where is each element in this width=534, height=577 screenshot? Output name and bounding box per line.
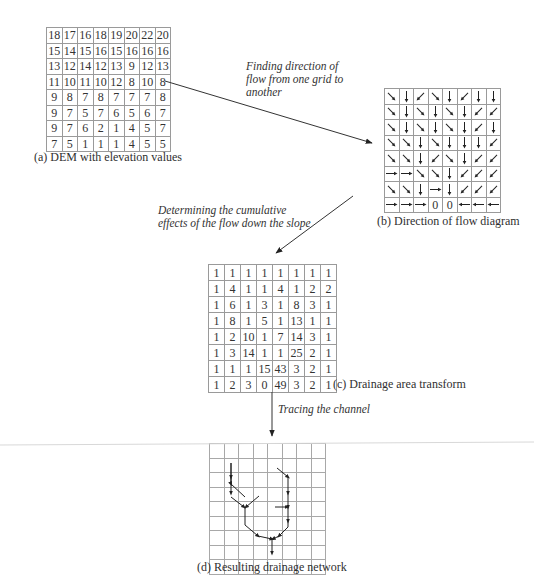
caption-flow-direction: (b) Direction of flow diagram bbox=[377, 214, 520, 229]
flow-arrow-s-icon bbox=[486, 120, 501, 136]
grid-cell: 1 bbox=[209, 377, 225, 393]
grid-cell bbox=[253, 516, 268, 531]
grid-cell: 1 bbox=[209, 361, 225, 377]
grid-cell bbox=[210, 516, 225, 531]
flow-arrow-sw-icon bbox=[472, 182, 487, 198]
grid-cell bbox=[268, 516, 283, 531]
grid-cell: 2 bbox=[321, 281, 337, 297]
grid-cell: 19 bbox=[109, 28, 125, 44]
grid-cell: 6 bbox=[109, 105, 125, 121]
grid-row bbox=[210, 502, 326, 517]
flow-arrow-sw-icon bbox=[472, 166, 487, 182]
grid-cell: 7 bbox=[93, 105, 109, 121]
grid-cell: 8 bbox=[225, 313, 241, 329]
grid-cell bbox=[210, 458, 225, 473]
flow-arrow-e-icon bbox=[385, 197, 400, 213]
grid-cell: 8 bbox=[124, 74, 140, 90]
grid-cell bbox=[224, 516, 239, 531]
flow-arrow-e-icon bbox=[399, 197, 414, 213]
caption-drainage-area: (c) Drainage area transform bbox=[333, 377, 466, 392]
grid-cell: 2 bbox=[305, 361, 321, 377]
grid-cell: 1 bbox=[321, 345, 337, 361]
grid-cell: 1 bbox=[305, 313, 321, 329]
grid-row: 1111543321 bbox=[209, 361, 337, 377]
grid-row: 97621457 bbox=[47, 121, 171, 137]
grid-cell: 6 bbox=[78, 121, 94, 137]
grid-cell: 20 bbox=[155, 28, 171, 44]
grid-cell: 15 bbox=[47, 43, 63, 59]
grid-cell bbox=[253, 473, 268, 488]
grid-cell: 14 bbox=[241, 345, 257, 361]
grid-cell: 1 bbox=[225, 265, 241, 281]
grid-row: 1817161819202220 bbox=[47, 28, 171, 44]
grid-cell bbox=[297, 516, 312, 531]
flow-arrow-s-icon bbox=[414, 135, 429, 151]
flow-arrow-s-icon bbox=[399, 120, 414, 136]
grid-row: 1314112521 bbox=[209, 345, 337, 361]
grid-cell: 3 bbox=[241, 377, 257, 393]
flow-arrow-s-icon bbox=[457, 120, 472, 136]
grid-cell bbox=[311, 473, 326, 488]
grid-cell bbox=[224, 487, 239, 502]
flow-arrow-sw-icon bbox=[486, 166, 501, 182]
flow-arrow-e-icon bbox=[414, 197, 429, 213]
grid-cell: 10 bbox=[62, 74, 78, 90]
grid-cell: 1 bbox=[209, 345, 225, 361]
grid-cell: 7 bbox=[62, 121, 78, 137]
grid-cell bbox=[239, 458, 254, 473]
grid-cell: 3 bbox=[225, 345, 241, 361]
note-line: effects of the flow down the slope bbox=[158, 217, 311, 230]
grid-cell: 14 bbox=[289, 329, 305, 345]
grid-cell: 2 bbox=[305, 345, 321, 361]
grid-cell: 16 bbox=[140, 43, 156, 59]
grid-row: 16131831 bbox=[209, 297, 337, 313]
grid-cell: 1 bbox=[209, 313, 225, 329]
flow-arrow-w-icon bbox=[486, 197, 501, 213]
flow-arrow-sw-icon bbox=[486, 151, 501, 167]
note-tracing-channel: Tracing the channel bbox=[278, 403, 370, 416]
grid-row bbox=[385, 182, 501, 198]
grid-cell bbox=[311, 516, 326, 531]
flow-arrow-s-icon bbox=[428, 104, 443, 120]
grid-cell: 5 bbox=[124, 105, 140, 121]
grid-cell: 4 bbox=[124, 121, 140, 137]
flow-arrow-s-icon bbox=[457, 104, 472, 120]
grid-row bbox=[210, 458, 326, 473]
grid-cell bbox=[311, 458, 326, 473]
grid-cell bbox=[224, 444, 239, 459]
grid-cell: 22 bbox=[140, 28, 156, 44]
grid-row: 00 bbox=[385, 197, 501, 213]
flow-arrow-s-icon bbox=[443, 89, 458, 105]
flow-arrow-sw-icon bbox=[486, 135, 501, 151]
grid-cell bbox=[224, 545, 239, 560]
flow-arrow-w-icon bbox=[457, 197, 472, 213]
grid-row: 1514151615161616 bbox=[47, 43, 171, 59]
grid-cell: 1 bbox=[241, 361, 257, 377]
grid-cell: 11 bbox=[78, 74, 94, 90]
grid-cell: 15 bbox=[257, 361, 273, 377]
grid-cell: 1 bbox=[321, 329, 337, 345]
grid-row bbox=[385, 104, 501, 120]
grid-cell: 1 bbox=[321, 297, 337, 313]
note-line: Finding direction of bbox=[246, 60, 343, 73]
grid-row bbox=[210, 531, 326, 546]
grid-row: 1210171431 bbox=[209, 329, 337, 345]
flow-direction-grid: 00 bbox=[384, 88, 501, 213]
grid-row: 11101110128108 bbox=[47, 74, 171, 90]
flow-arrow-e-icon bbox=[385, 166, 400, 182]
grid-cell: 13 bbox=[47, 59, 63, 75]
grid-row bbox=[385, 135, 501, 151]
grid-cell bbox=[282, 531, 297, 546]
grid-row: 181511311 bbox=[209, 313, 337, 329]
flow-arrow-s-icon bbox=[457, 151, 472, 167]
flow-arrow-sw-icon bbox=[428, 151, 443, 167]
grid-cell: 5 bbox=[140, 121, 156, 137]
grid-cell: 6 bbox=[225, 297, 241, 313]
flow-arrow-s-icon bbox=[414, 151, 429, 167]
grid-cell bbox=[268, 458, 283, 473]
grid-cell bbox=[297, 444, 312, 459]
flow-arrow-se-icon bbox=[385, 151, 400, 167]
grid-cell bbox=[297, 458, 312, 473]
grid-cell: 1 bbox=[273, 297, 289, 313]
flow-arrow-se-icon bbox=[414, 166, 429, 182]
